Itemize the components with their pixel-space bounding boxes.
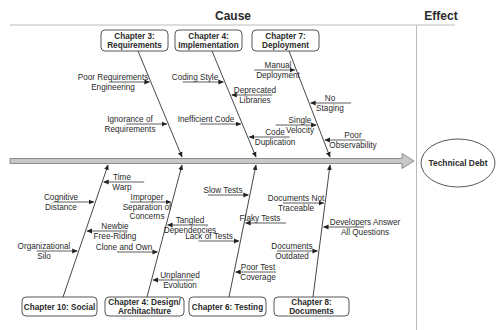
category-bone xyxy=(313,165,330,297)
cause-label: Time xyxy=(113,173,131,182)
cause-label: Deprecated xyxy=(234,86,277,95)
cause-item: Clone and Own xyxy=(96,243,158,253)
category-label: Chapter 6: Testing xyxy=(192,303,263,312)
cause-label: Requirements xyxy=(105,125,156,134)
cause-label: Separation of xyxy=(123,203,172,212)
cause-label: Tangled xyxy=(176,216,205,225)
cause-label: Inefficient Code xyxy=(178,115,235,124)
cause-item: Developers AnswerAll Questions xyxy=(324,218,401,237)
category-label: Documents xyxy=(289,307,334,316)
cause-item: Slow Tests xyxy=(204,186,249,196)
category-testing: Chapter 6: TestingSlow TestsFlaky TestsL… xyxy=(185,165,286,316)
cause-label: Slow Tests xyxy=(204,186,243,195)
cause-label: Documents Not xyxy=(268,194,325,203)
effect-label: Technical Debt xyxy=(429,158,488,168)
cause-item: NoStaging xyxy=(311,94,352,113)
category-label: Deployment xyxy=(262,41,309,50)
cause-label: All Questions xyxy=(341,228,389,237)
cause-item: ImproperSeparation ofConcerns xyxy=(123,193,172,222)
cause-item: Flaky Tests xyxy=(240,214,287,224)
category-requirements: Chapter 3:RequirementsPoor RequirementsE… xyxy=(78,30,182,157)
cause-label: Coverage xyxy=(240,273,276,282)
cause-item: DeprecatedLibraries xyxy=(232,86,277,105)
category-label: Implementation xyxy=(178,41,239,50)
fishbone-diagram: Cause Effect Technical Debt Chapter 3:Re… xyxy=(0,0,503,330)
category-label: Chapter 10: Social xyxy=(24,303,95,312)
cause-categories: Chapter 3:RequirementsPoor RequirementsE… xyxy=(18,30,401,316)
cause-label: Organizational xyxy=(18,242,71,251)
cause-header: Cause xyxy=(215,9,251,23)
cause-label: Improper xyxy=(131,193,164,202)
cause-label: Concerns xyxy=(129,212,164,221)
cause-label: Poor Test xyxy=(241,263,276,272)
cause-label: Manual xyxy=(265,61,292,70)
cause-label: Staging xyxy=(316,104,344,113)
cause-label: Newbie xyxy=(101,222,129,231)
cause-label: Engineering xyxy=(91,83,135,92)
cause-item: PoorObservability xyxy=(325,131,378,150)
main-spine-arrow xyxy=(10,154,414,169)
cause-label: Flaky Tests xyxy=(240,214,281,223)
category-label: Architachture xyxy=(118,307,172,316)
cause-label: Poor Requirements xyxy=(78,73,149,82)
effect-node: Technical Debt xyxy=(421,139,495,187)
cause-label: Coding Style xyxy=(172,73,219,82)
cause-label: Poor xyxy=(344,131,362,140)
category-documents: Chapter 8:DocumentsDocuments NotTraceabl… xyxy=(268,165,401,316)
cause-item: NewbieFree-Riding xyxy=(87,222,137,241)
cause-label: Outdated xyxy=(275,252,309,261)
cause-item: Ignorance ofRequirements xyxy=(105,115,167,134)
cause-label: Warp xyxy=(112,183,132,192)
cause-item: Lack of Tests xyxy=(185,232,239,242)
cause-item: OrganizationalSilo xyxy=(18,242,78,261)
category-label: Requirements xyxy=(107,41,162,50)
cause-label: Distance xyxy=(45,203,77,212)
cause-label: Single xyxy=(289,116,312,125)
cause-label: Deployment xyxy=(256,71,300,80)
cause-item: UnplannedEvolution xyxy=(153,271,200,290)
cause-label: Clone and Own xyxy=(96,243,153,252)
cause-item: DocumentsOutdated xyxy=(271,242,317,261)
cause-label: Documents xyxy=(271,242,312,251)
cause-label: Velocity xyxy=(286,126,315,135)
effect-header: Effect xyxy=(424,9,457,23)
category-bone xyxy=(138,51,182,157)
cause-label: No xyxy=(325,94,336,103)
cause-label: Code xyxy=(265,128,285,137)
cause-item: Poor TestCoverage xyxy=(236,263,277,282)
cause-item: Inefficient Code xyxy=(178,115,241,125)
cause-label: Ignorance of xyxy=(107,115,153,124)
cause-label: Observability xyxy=(329,141,377,150)
cause-label: Lack of Tests xyxy=(185,232,233,241)
cause-label: Silo xyxy=(37,252,51,261)
cause-label: Traceable xyxy=(278,204,315,213)
cause-label: Cognitive xyxy=(44,193,79,202)
cause-item: Coding Style xyxy=(172,73,224,83)
cause-item: Poor RequirementsEngineering xyxy=(78,73,150,92)
cause-item: Documents NotTraceable xyxy=(268,194,325,213)
cause-label: Evolution xyxy=(163,281,197,290)
cause-item: TimeWarp xyxy=(104,173,145,192)
category-social: Chapter 10: SocialTimeWarpCognitiveDista… xyxy=(18,165,145,316)
cause-label: Free-Riding xyxy=(94,232,137,241)
cause-label: Developers Answer xyxy=(330,218,401,227)
cause-label: Unplanned xyxy=(160,271,200,280)
cause-item: CognitiveDistance xyxy=(44,193,94,212)
cause-label: Libraries xyxy=(239,96,270,105)
cause-label: Duplication xyxy=(255,138,296,147)
